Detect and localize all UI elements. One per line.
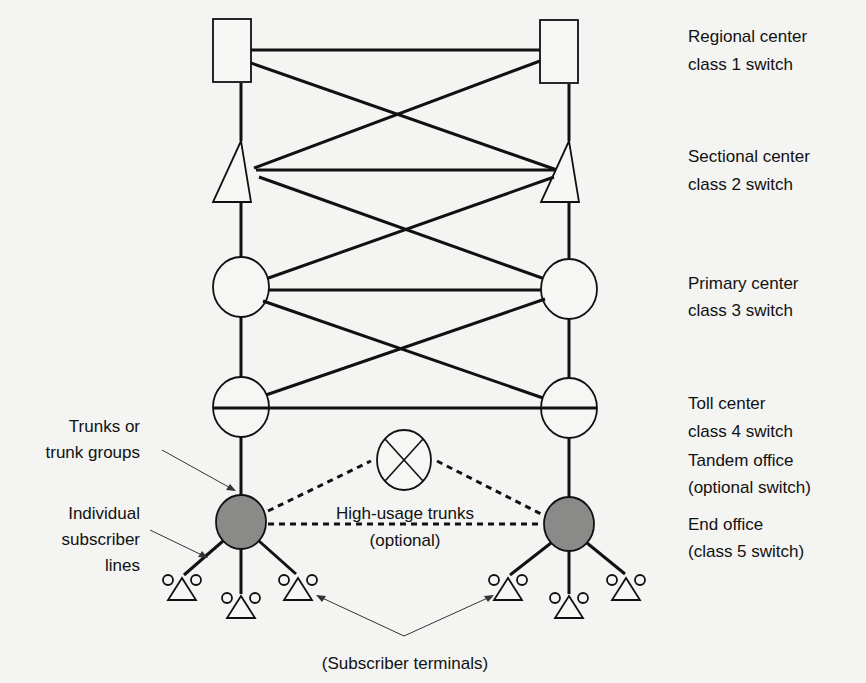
subscriber-terminal-icon	[489, 575, 527, 600]
level-sublabel: (optional switch)	[688, 478, 811, 497]
level-sublabel: class 4 switch	[688, 422, 793, 441]
regional-center-right	[540, 20, 578, 83]
subscriber-terminal-icon	[279, 575, 317, 600]
subscriber-terminal-icon	[222, 593, 260, 618]
arrow-icon	[150, 450, 494, 636]
trunks-label: Trunks or	[69, 417, 141, 436]
level-label: Sectional center	[688, 147, 810, 166]
subscriber-terminal-icon	[550, 593, 588, 618]
level-label: Toll center	[688, 394, 766, 413]
diagram-page: Regional center class 1 switch Sectional…	[0, 0, 866, 683]
subscriber-terminal-icon	[607, 575, 645, 600]
sectional-center-left	[213, 141, 251, 202]
primary-center-right	[541, 259, 597, 319]
high-usage-trunks-label: (optional)	[370, 531, 441, 550]
subscriber-terminal-icon	[163, 575, 201, 600]
end-office-right	[544, 497, 594, 551]
trunks-label: trunk groups	[46, 443, 141, 462]
switching-hierarchy-diagram: Regional center class 1 switch Sectional…	[0, 0, 866, 683]
subscriber-lines-label: Individual	[68, 504, 140, 523]
high-usage-trunks-label: High-usage trunks	[336, 504, 474, 523]
level-label: Primary center	[688, 274, 799, 293]
level-label: Tandem office	[688, 451, 794, 470]
end-office-left	[216, 495, 266, 549]
level-sublabel: class 1 switch	[688, 55, 793, 74]
regional-center-left	[213, 19, 251, 82]
subscriber-terminals-label: (Subscriber terminals)	[322, 654, 488, 673]
level-sublabel: class 3 switch	[688, 301, 793, 320]
level-sublabel: class 2 switch	[688, 175, 793, 194]
primary-center-left	[213, 257, 269, 317]
level-label: Regional center	[688, 27, 807, 46]
level-sublabel: (class 5 switch)	[688, 542, 804, 561]
subscriber-lines-label: lines	[105, 556, 140, 575]
subscriber-lines-label: subscriber	[62, 530, 141, 549]
level-label: End office	[688, 515, 763, 534]
